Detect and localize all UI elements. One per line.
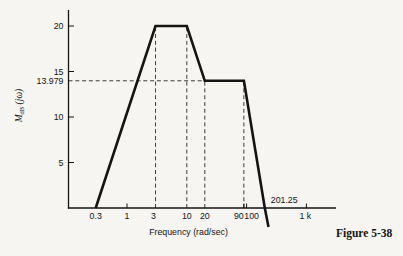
x-tick-label: 10 bbox=[182, 211, 192, 221]
x-tick-label: 1 k bbox=[300, 211, 312, 221]
x-tick-label: 1 bbox=[125, 211, 130, 221]
magnitude-symbol: M bbox=[14, 114, 24, 122]
bode-plot-svg: 201510513.9790.3131020901001 k201.25 bbox=[0, 0, 403, 256]
y-tick-label: 10 bbox=[54, 112, 64, 122]
y-tick-label: 5 bbox=[59, 158, 64, 168]
figure-caption: Figure 5-38 bbox=[336, 227, 403, 239]
y-tick-label: 20 bbox=[54, 21, 64, 31]
bode-plot-figure: 201510513.9790.3131020901001 k201.25 MdB… bbox=[0, 0, 403, 256]
x-tick-label: 20 bbox=[200, 211, 210, 221]
db-subscript: dB bbox=[18, 107, 25, 115]
x-axis-label: Frequency (rad/sec) bbox=[128, 227, 249, 237]
y-reference-label: 13.979 bbox=[37, 76, 64, 86]
x-tick-label: 90 bbox=[234, 211, 244, 221]
x-tick-label: 0.3 bbox=[90, 211, 102, 221]
jw-argument: (jω) bbox=[14, 89, 24, 107]
y-axis-label: MdB (jω) bbox=[13, 71, 26, 141]
crossover-annotation: 201.25 bbox=[271, 195, 298, 205]
x-tick-label: 100 bbox=[244, 211, 259, 221]
x-tick-label: 3 bbox=[151, 211, 156, 221]
magnitude-curve bbox=[96, 26, 269, 227]
